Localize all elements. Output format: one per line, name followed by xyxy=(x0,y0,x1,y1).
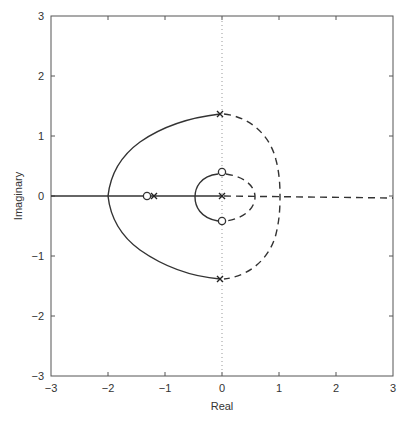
dashed-loci xyxy=(224,114,393,279)
solid-loci xyxy=(51,114,222,279)
x-tick-label: 3 xyxy=(390,382,396,394)
y-tick-labels: 3 2 1 0 −1 −2 −3 xyxy=(31,10,44,382)
y-tick-label: 0 xyxy=(38,190,44,202)
root-locus-chart: −3 −2 −1 0 1 2 3 3 2 1 0 −1 −2 −3 Real I… xyxy=(0,0,412,423)
y-tick-label: −2 xyxy=(31,310,44,322)
y-tick-label: −3 xyxy=(31,370,44,382)
inner-locus-dashed xyxy=(226,174,255,221)
positive-real-axis-dashed xyxy=(224,196,393,198)
zero-marker-icon xyxy=(218,168,225,175)
zero-marker-icon xyxy=(143,192,150,199)
x-tick-label: −3 xyxy=(45,382,58,394)
x-axis-label: Real xyxy=(211,400,234,412)
y-tick-label: 1 xyxy=(38,130,44,142)
y-axis-label: Imaginary xyxy=(12,171,24,220)
y-tick-label: 3 xyxy=(38,10,44,22)
zero-marker-icon xyxy=(218,217,225,224)
x-tick-labels: −3 −2 −1 0 1 2 3 xyxy=(45,382,396,394)
y-tick-label: −1 xyxy=(31,250,44,262)
x-tick-label: −1 xyxy=(159,382,172,394)
x-tick-label: 2 xyxy=(333,382,339,394)
x-tick-label: −2 xyxy=(102,382,115,394)
inner-locus-solid xyxy=(195,174,218,221)
y-tick-label: 2 xyxy=(38,70,44,82)
x-tick-label: 1 xyxy=(276,382,282,394)
x-tick-label: 0 xyxy=(219,382,225,394)
